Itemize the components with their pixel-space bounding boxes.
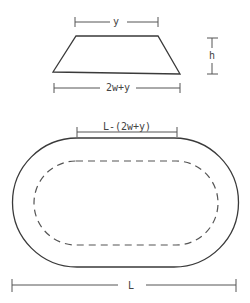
- trapezoid-cross-section: [53, 36, 180, 74]
- diagram-canvas: y h 2w+y L-(2w+y) L: [0, 0, 250, 303]
- dimension-2w-plus-y: 2w+y: [54, 82, 180, 93]
- label-2w-plus-y: 2w+y: [106, 82, 130, 93]
- track-outer-outline: [12, 138, 238, 267]
- dimension-h: h: [207, 38, 218, 74]
- label-straight-section: L-(2w+y): [103, 121, 151, 132]
- dimension-L: L: [12, 279, 236, 292]
- track-inner-dashed-outline: [34, 161, 218, 245]
- label-y: y: [113, 16, 119, 27]
- dimension-y: y: [75, 16, 158, 27]
- label-h: h: [209, 50, 215, 61]
- label-L: L: [128, 280, 134, 291]
- dimension-straight-section: L-(2w+y): [77, 121, 177, 137]
